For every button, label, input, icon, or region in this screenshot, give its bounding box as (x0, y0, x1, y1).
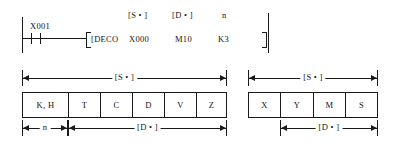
instruction-close-bracket-icon (262, 32, 267, 48)
ladder-rung-section: X001 [DECO [S • ] X000 [D • ] M10 n K3 (0, 0, 393, 62)
left-operand-table: K, H T C D V Z (22, 92, 227, 118)
left-table-destination-dimension: [D • ] (68, 120, 227, 136)
contact-gap-wire (32, 38, 40, 39)
instruction-mnemonic: [DECO (91, 35, 118, 44)
table-cell: V (165, 93, 197, 117)
rung-wire-after-contact (41, 38, 87, 39)
table-cell: C (101, 93, 133, 117)
operand-header-source: [S • ] (128, 11, 147, 20)
table-cell: K, H (23, 93, 69, 117)
left-power-rail (22, 17, 23, 53)
right-power-rail (268, 13, 269, 53)
table-cell: X (249, 93, 281, 117)
right-table-source-dimension-label: [S • ] (300, 71, 325, 83)
left-table-source-dimension-label: [S • ] (112, 71, 137, 83)
left-table-destination-dimension-label: [D • ] (134, 121, 161, 133)
table-cell: S (346, 93, 377, 117)
right-table-destination-dimension: [D • ] (280, 120, 378, 136)
right-table-source-dimension: [S • ] (248, 70, 378, 86)
operand-header-n: n (222, 11, 227, 20)
table-cell: T (69, 93, 101, 117)
table-cell: Y (281, 93, 314, 117)
right-operand-table: X Y M S (248, 92, 378, 118)
contact-label-x001: X001 (30, 22, 50, 31)
table-cell: Z (197, 93, 226, 117)
right-table-destination-dimension-label: [D • ] (316, 121, 343, 133)
operand-header-destination: [D • ] (172, 11, 193, 20)
left-table-n-dimension-label: n (40, 121, 51, 133)
operand-value-n: K3 (218, 35, 229, 44)
left-table-source-dimension: [S • ] (22, 70, 227, 86)
diagram-canvas: X001 [DECO [S • ] X000 [D • ] M10 n K3 [… (0, 0, 393, 162)
left-table-n-dimension: n (22, 120, 68, 136)
table-cell: M (314, 93, 346, 117)
table-cell: D (133, 93, 165, 117)
operand-value-source: X000 (129, 35, 149, 44)
operand-value-destination: M10 (175, 35, 192, 44)
